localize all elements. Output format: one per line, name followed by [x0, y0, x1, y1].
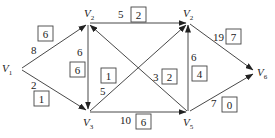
diagram-svg: V1 V2 V2 V3 V5 V6 8 2 6 5 5 3 10 6 19 7 … — [0, 0, 275, 138]
svg-text:1: 1 — [39, 93, 45, 105]
node-v6: V6 — [257, 66, 268, 81]
capacity-v5-v2: 3 — [153, 71, 159, 83]
flow-box-v5-v2: 2 — [162, 69, 177, 84]
flow-box-v2-v4: 2 — [131, 7, 146, 22]
node-v3: V3 — [83, 116, 94, 131]
svg-text:6: 6 — [75, 64, 81, 76]
svg-text:0: 0 — [227, 99, 233, 111]
flow-box-v2-v3: 6 — [70, 62, 85, 77]
node-v2: V2 — [84, 7, 95, 22]
svg-text:1: 1 — [106, 70, 112, 82]
capacity-v4-v6: 19 — [213, 31, 225, 43]
flow-box-v5-v4: 4 — [192, 66, 207, 81]
svg-text:6: 6 — [43, 28, 49, 40]
flow-box-v1-v3: 1 — [34, 91, 49, 106]
capacity-v5-v4: 6 — [191, 51, 197, 63]
flow-box-v4-v6: 7 — [226, 29, 241, 44]
node-v5: V5 — [183, 116, 194, 131]
svg-text:7: 7 — [231, 31, 237, 43]
svg-text:2: 2 — [167, 71, 173, 83]
capacity-v3-v5: 10 — [120, 114, 132, 126]
flow-box-v1-v2: 6 — [38, 26, 53, 41]
svg-text:2: 2 — [136, 9, 142, 21]
capacity-v3-v4: 5 — [100, 85, 106, 97]
node-v4: V2 — [183, 7, 194, 22]
capacity-v1-v3: 2 — [31, 79, 37, 91]
capacity-v2-v3: 6 — [77, 46, 83, 58]
capacity-v2-v4: 5 — [118, 8, 124, 20]
network-flow-diagram: V1 V2 V2 V3 V5 V6 8 2 6 5 5 3 10 6 19 7 … — [0, 0, 275, 138]
capacity-v5-v6: 7 — [211, 97, 217, 109]
svg-text:6: 6 — [141, 116, 147, 128]
flow-box-v5-v6: 0 — [222, 97, 237, 112]
flow-box-v3-v5: 6 — [136, 114, 151, 129]
capacity-v1-v2: 8 — [31, 44, 37, 56]
flow-box-v3-v4: 1 — [101, 68, 116, 83]
svg-text:4: 4 — [197, 68, 203, 80]
node-v1: V1 — [2, 62, 13, 77]
